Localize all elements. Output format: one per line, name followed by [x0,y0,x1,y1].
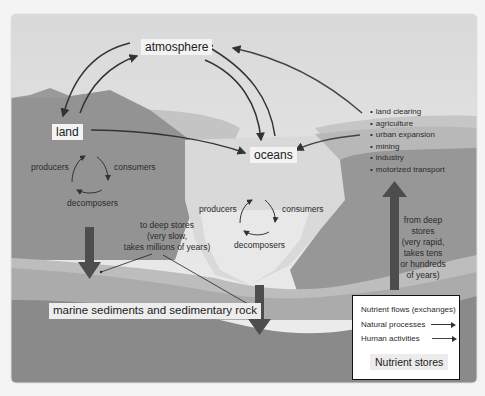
nutrient-cycle-diagram: atmosphere land oceans marine sediments … [0,0,485,396]
human-arrow-icon [432,338,454,339]
land-producers-label: producers [31,163,69,172]
human-activities-list: land clearing agriculture urban expansio… [370,106,445,176]
ocean-producers-label: producers [199,205,237,214]
legend-stores-label: Nutrient stores [370,354,448,370]
legend-title: Nutrient flows (exchanges) [361,305,456,314]
natural-arrow-icon [431,324,453,325]
legend-natural-label: Natural processes [361,320,425,329]
legend: Nutrient flows (exchanges) Natural proce… [352,295,460,380]
human-activity-item: agriculture [370,118,445,130]
from-deep-stores-note: from deep stores (very rapid, takes tens… [398,215,448,281]
human-activity-item: urban expansion [370,129,445,141]
human-activity-item: mining [370,141,445,153]
ocean-decomposers-label: decomposers [234,241,285,250]
sediments-label: marine sediments and sedimentary rock [49,303,261,319]
legend-natural-row: Natural processes [361,320,453,329]
land-label: land [52,124,83,140]
land-decomposers-label: decomposers [67,199,118,208]
oceans-label: oceans [250,147,297,163]
atmosphere-label: atmosphere [141,39,212,55]
land-consumers-label: consumers [114,163,156,172]
legend-human-row: Human activities [361,334,454,343]
human-activity-item: industry [370,152,445,164]
human-activity-item: motorized transport [370,164,445,176]
to-deep-stores-note: to deep stores (very slow, takes million… [117,220,217,253]
legend-human-label: Human activities [361,334,420,343]
ocean-consumers-label: consumers [282,205,324,214]
human-activity-item: land clearing [370,106,445,118]
